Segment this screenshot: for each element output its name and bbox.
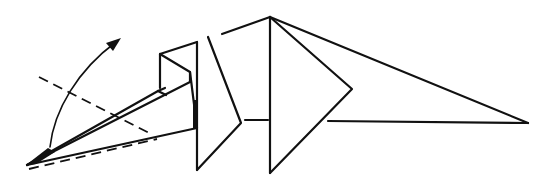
fold-arrow-icon [50,38,121,147]
center-body [222,17,352,173]
diagram-svg [0,0,554,183]
front-flap [197,37,241,170]
tail-triangle [270,17,528,123]
box-layer [160,42,197,170]
pointed-flap [26,82,197,165]
origami-diagram [0,0,554,183]
